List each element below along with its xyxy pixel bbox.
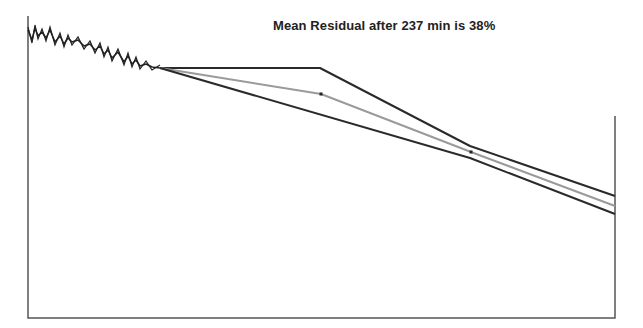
plot-frame [28,16,615,318]
observed-noisy-series [28,25,160,70]
forecast-lines [160,68,615,214]
observed-line-jitter [28,25,160,70]
data-point-marker [320,93,323,96]
axis-frame-line [28,16,615,318]
lower-bound-line [160,68,615,214]
data-point-marker [470,151,473,154]
residual-chart [0,0,643,328]
